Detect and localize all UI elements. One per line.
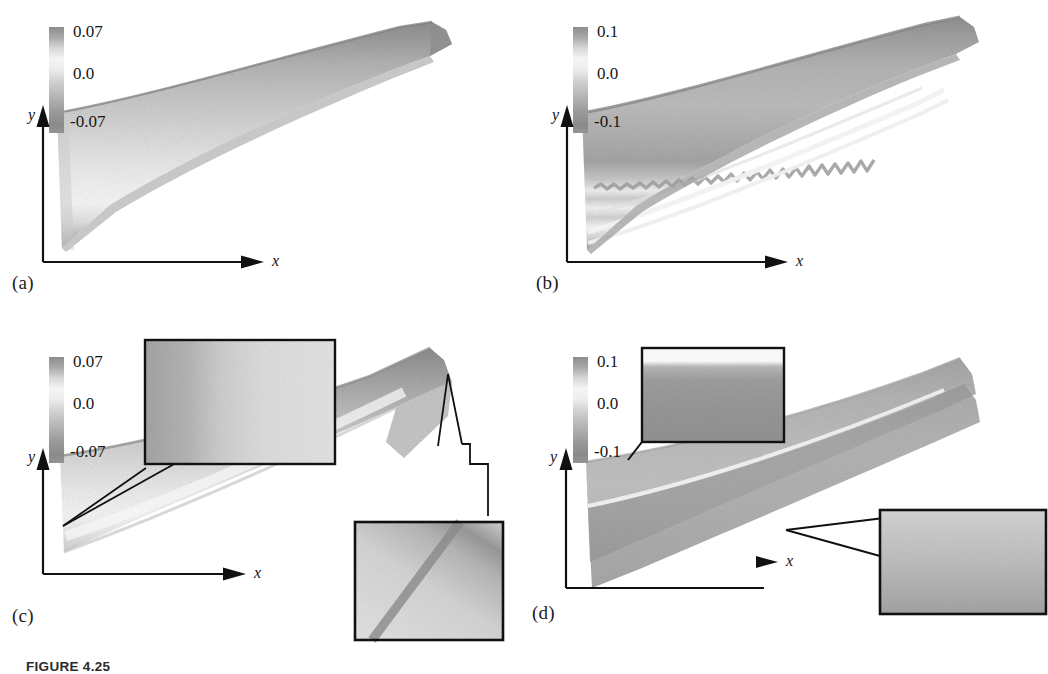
x-axis-label-d: x: [786, 552, 793, 570]
x-axis-label-c: x: [254, 564, 261, 582]
colorbar-a-tick-min: -0.07: [70, 112, 105, 132]
colorbar-b-tick-mid: 0.0: [597, 64, 618, 84]
inset-d-bottom: [880, 510, 1046, 614]
y-axis-arrow-b: [561, 105, 574, 262]
panel-label-b: (b): [536, 272, 559, 294]
y-axis-label-a: y: [28, 106, 35, 124]
colorbar-d-tick-mid: 0.0: [597, 394, 618, 414]
y-axis-label-c: y: [28, 448, 35, 466]
colorbar-c-tick-min: -0.07: [70, 442, 105, 462]
y-axis-label-b: y: [552, 106, 559, 124]
y-axis-label-d: y: [550, 448, 557, 466]
panel-c: 0.07 0.0 -0.07 y x (c): [0, 330, 524, 660]
inset-c-top: [145, 340, 335, 464]
colorbar-a-tick-max: 0.07: [73, 22, 103, 42]
colorbar-d: [573, 357, 588, 463]
colorbar-c-tick-mid: 0.0: [73, 394, 94, 414]
colorbar-c-tick-max: 0.07: [73, 352, 103, 372]
x-axis-arrow-c: [43, 568, 246, 581]
x-axis-arrow-a: [43, 256, 264, 269]
panel-label-c: (c): [12, 605, 34, 627]
leader-lines-c-bottom: [438, 374, 488, 516]
colorbar-c: [49, 357, 64, 463]
panel-d-graphic: [524, 330, 1048, 674]
x-axis-arrow-b: [567, 256, 788, 269]
y-axis-arrow-d: [560, 448, 573, 582]
figure-root: 0.07 0.0 -0.07 y x (a): [0, 0, 1048, 674]
colorbar-a: [49, 27, 64, 133]
colorbar-b-tick-max: 0.1: [597, 22, 618, 42]
colorbar-b: [573, 27, 588, 133]
colorbar-b-tick-min: -0.1: [594, 112, 621, 132]
y-axis-arrow-c: [37, 448, 50, 568]
panel-a: 0.07 0.0 -0.07 y x (a): [0, 0, 524, 300]
panel-a-graphic: [0, 0, 524, 300]
inset-c-bottom: [355, 522, 503, 640]
x-axis-label-b: x: [796, 252, 803, 270]
panel-b-graphic: [524, 0, 1048, 300]
figure-caption: FIGURE 4.25: [26, 659, 926, 674]
colorbar-d-tick-max: 0.1: [597, 352, 618, 372]
inset-d-top: [642, 348, 784, 442]
panel-d: 0.1 0.0 -0.1 y x (d): [524, 330, 1048, 674]
panel-label-d: (d): [532, 602, 555, 624]
x-axis-label-a: x: [272, 252, 279, 270]
colorbar-a-tick-mid: 0.0: [73, 64, 94, 84]
y-axis-arrow-a: [37, 105, 50, 262]
colorbar-d-tick-min: -0.1: [594, 442, 621, 462]
panel-b: 0.1 0.0 -0.1 y x (b): [524, 0, 1048, 300]
panel-c-graphic: [0, 330, 524, 660]
panel-label-a: (a): [12, 272, 34, 294]
